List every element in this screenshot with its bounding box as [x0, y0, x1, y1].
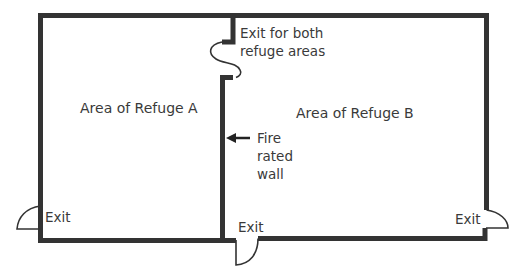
- fire-wall-label-line3: wall: [257, 166, 284, 183]
- bottom-right-wall: [258, 228, 485, 239]
- exit-label-left: Exit: [45, 209, 71, 226]
- right-exit-door-swing: [486, 210, 508, 228]
- fire-rated-wall: [223, 78, 234, 241]
- fire-wall-arrow: [226, 133, 250, 143]
- shared-exit-door-swing: [211, 42, 241, 78]
- left-exit-door-swing: [17, 206, 41, 229]
- center-wall-upper: [222, 16, 233, 43]
- exit-label-right: Exit: [455, 211, 481, 228]
- room-label-b: Area of Refuge B: [296, 105, 414, 122]
- room-label-a: Area of Refuge A: [80, 100, 198, 117]
- fire-wall-label-line1: Fire: [257, 130, 281, 147]
- shared-exit-label-line2: refuge areas: [240, 43, 325, 60]
- bottom-exit-door-swing: [236, 239, 258, 266]
- bottom-left-wall: [41, 230, 237, 241]
- shared-exit-label-line1: Exit for both: [240, 25, 323, 42]
- exit-label-bottom-center: Exit: [238, 219, 264, 236]
- fire-wall-label-line2: rated: [257, 148, 293, 165]
